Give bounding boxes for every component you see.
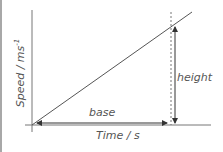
base-label: base: [89, 107, 115, 118]
y-axis-label-superscript: -1: [13, 39, 21, 46]
x-axis-label: Time / s: [96, 130, 140, 141]
speed-time-diagram: base height Time / s Speed / ms-1: [0, 0, 223, 152]
y-axis-label: Speed / ms-1: [14, 39, 26, 108]
y-axis-label-main: Speed / ms: [14, 46, 27, 108]
height-label: height: [177, 72, 212, 83]
